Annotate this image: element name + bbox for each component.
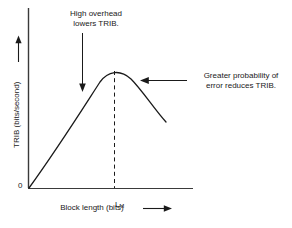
origin-label: 0 (18, 181, 22, 191)
annotation-high-overhead: High overhead lowers TRIB. (56, 9, 136, 28)
y-axis-up-arrow-icon (15, 36, 21, 63)
y-axis-label: TRIB (bits/second) (12, 60, 22, 170)
left-annotation-arrow-icon (79, 33, 86, 92)
peak-marker-label: LM (106, 190, 124, 220)
figure-canvas (0, 0, 292, 228)
x-axis-right-arrow-icon (143, 205, 172, 211)
trib-block-length-figure: High overhead lowers TRIB. Greater proba… (0, 0, 292, 228)
right-annotation-arrow-icon (140, 77, 187, 84)
peak-marker-subscript: M (119, 203, 124, 209)
trib-curve (29, 73, 166, 188)
annotation-greater-probability: Greater probability of error reduces TRI… (191, 71, 291, 90)
